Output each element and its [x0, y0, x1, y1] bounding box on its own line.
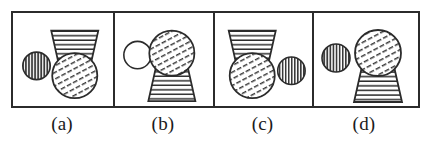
panel-d-big-circle [355, 30, 401, 76]
panel-c-big-circle [230, 53, 275, 98]
panel-strip [11, 11, 420, 108]
panel-c-small-circle [278, 57, 305, 84]
panel-b-graphic [115, 13, 213, 106]
panel-d [314, 13, 418, 106]
panel-b-big-circle [149, 31, 194, 76]
panel-a-big-circle [52, 53, 97, 98]
panel-d-graphic [314, 13, 418, 106]
panel-label-a: (a) [11, 110, 113, 138]
panel-c-graphic [215, 13, 312, 106]
panel-c [215, 13, 314, 106]
panel-b-small-circle [124, 41, 151, 68]
panel-label-row: (a) (b) (c) (d) [11, 110, 420, 142]
figure-root: (a) (b) (c) (d) [0, 0, 428, 144]
panel-a-small-circle [23, 52, 50, 79]
panel-b [115, 13, 215, 106]
panel-a-graphic [13, 13, 113, 106]
panel-d-small-circle [322, 44, 350, 72]
panel-label-d: (d) [312, 110, 416, 138]
panel-label-c: (c) [213, 110, 312, 138]
panel-label-b: (b) [113, 110, 213, 138]
panel-a [13, 13, 115, 106]
